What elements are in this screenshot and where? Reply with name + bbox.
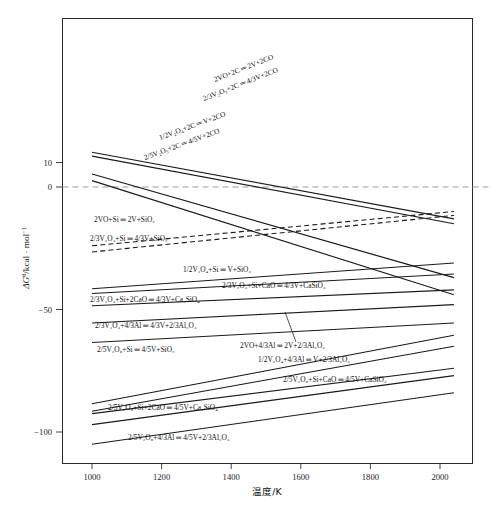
reaction-label: 2/3V₂O₃+Si+CaO ═ 4/3V+CaSiO₃: [222, 281, 326, 290]
reaction-label: 2/5V₂O₅+Si ═ 4/5V+SiO₂: [97, 345, 175, 354]
reaction-label: 2/5V₂O₅+Si+2CaO ═ 4/5V+Ca₂SiO₄: [108, 403, 218, 412]
reaction-label: 2/3V₂O₃+4/3Al ═ 4/3V+2/3Al₂O₃: [95, 321, 197, 330]
y-tick-label: 0: [48, 182, 52, 192]
reaction-label: 2/3V₂O₃+Si ═ 4/3V+SiO₂: [90, 234, 168, 243]
x-tick-label: 1400: [223, 472, 240, 482]
chart-figure: 100012001400160018002000 100−50−100 2VO+…: [0, 0, 491, 509]
reaction-label: 2/5V₂O₅+Si+CaO ═ 4/5V+CaSiO₃: [283, 375, 387, 384]
x-tick-label: 1800: [362, 472, 379, 482]
x-tick-label: 2000: [431, 472, 448, 482]
x-tick-label: 1600: [292, 472, 309, 482]
reaction-label: 2/5V₂O₅+4/3Al ═ 4/5V+2/3Al₂O₃: [128, 433, 230, 442]
x-tick-label: 1200: [153, 472, 170, 482]
y-tick-label: −50: [39, 305, 52, 315]
reaction-label: 2VO+Si ═ 2V+SiO₂: [94, 215, 155, 224]
y-tick-label: 10: [43, 158, 52, 168]
reaction-label: 2/3V₂O₃+Si+2CaO ═ 4/3V+Ca₂SiO₄: [90, 295, 200, 304]
x-axis-title: 温度/K: [252, 486, 282, 497]
reaction-label: 2VO+4/3Al ═ 2V+2/3Al₂O₃: [240, 341, 325, 350]
ellingham-diagram-svg: 100012001400160018002000 100−50−100 2VO+…: [0, 0, 491, 509]
y-axis-title: ΔGθ/kcal · mol−1: [20, 227, 31, 290]
x-tick-label: 1000: [83, 472, 100, 482]
reaction-label: 1/2V₂O₄+Si ═ V+SiO₂: [183, 265, 251, 274]
y-axis-title-text: ΔGθ/kcal · mol−1: [20, 227, 31, 290]
reaction-label: 1/2V₂O₄+4/3Al ═ V+2/3Al₂O₃: [258, 355, 350, 364]
y-tick-label: −100: [34, 427, 52, 437]
